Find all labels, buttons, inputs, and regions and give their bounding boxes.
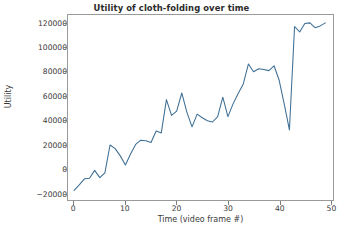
x-tick-mark (331, 201, 332, 205)
x-tick-label: 30 (223, 204, 233, 213)
x-tick-mark (176, 201, 177, 205)
y-tick-label: 0 (0, 165, 67, 174)
x-tick-label: 0 (71, 204, 76, 213)
x-tick-label: 20 (172, 204, 182, 213)
y-tick-label: 100000 (0, 43, 67, 52)
y-tick-label: 120000 (0, 18, 67, 27)
y-tick-label: 40000 (0, 116, 67, 125)
x-tick-label: 10 (120, 204, 130, 213)
x-tick-mark (280, 201, 281, 205)
y-tick-label: 60000 (0, 91, 67, 100)
chart-figure: Utility of cloth-folding over time Utili… (0, 0, 343, 237)
plot-area (67, 14, 334, 201)
y-tick-label: −20000 (0, 189, 67, 198)
x-axis-label: Time (video frame #) (67, 215, 334, 224)
x-tick-mark (228, 201, 229, 205)
x-tick-mark (125, 201, 126, 205)
chart-title: Utility of cloth-folding over time (0, 3, 343, 13)
y-tick-label: 20000 (0, 140, 67, 149)
y-tick-label: 80000 (0, 67, 67, 76)
x-tick-mark (73, 201, 74, 205)
x-tick-label: 40 (275, 204, 285, 213)
data-series-line (68, 15, 333, 200)
x-tick-label: 50 (327, 204, 337, 213)
